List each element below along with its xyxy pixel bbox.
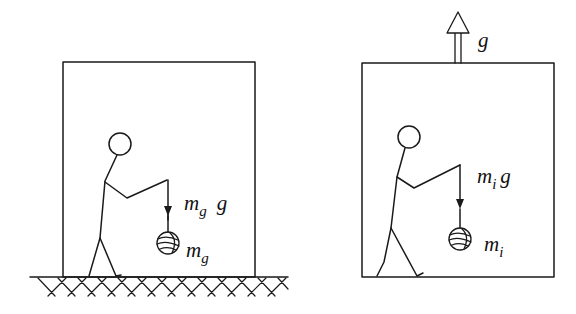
ball-icon (449, 228, 471, 250)
mass-label-right: mi (484, 232, 503, 260)
force-label-right: mig (477, 164, 511, 192)
head (109, 133, 131, 155)
force-arrow-down-icon (164, 206, 172, 216)
stick-figure (89, 133, 167, 276)
ground-hatching (38, 278, 288, 296)
head (398, 126, 420, 148)
box-outline (63, 62, 255, 277)
panel-ground: mgg mg (30, 62, 288, 296)
acceleration-arrow-up-icon (447, 12, 469, 63)
stick-figure (377, 126, 460, 276)
force-label-left: mgg (184, 191, 227, 219)
front-leg (100, 238, 121, 276)
arm (397, 165, 460, 188)
arm (105, 180, 167, 198)
body-and-rear-leg (377, 148, 405, 276)
ball-icon (157, 232, 179, 254)
panel-accelerating: g mig mi (362, 12, 554, 277)
force-arrow-down-icon (456, 199, 464, 209)
box-outline (362, 63, 554, 277)
acceleration-label: g (478, 28, 489, 52)
equivalence-principle-diagram: mgg mg g mig mi (0, 0, 576, 314)
body-and-rear-leg (89, 155, 117, 276)
mass-label-left: mg (186, 238, 209, 266)
front-leg (391, 228, 423, 276)
